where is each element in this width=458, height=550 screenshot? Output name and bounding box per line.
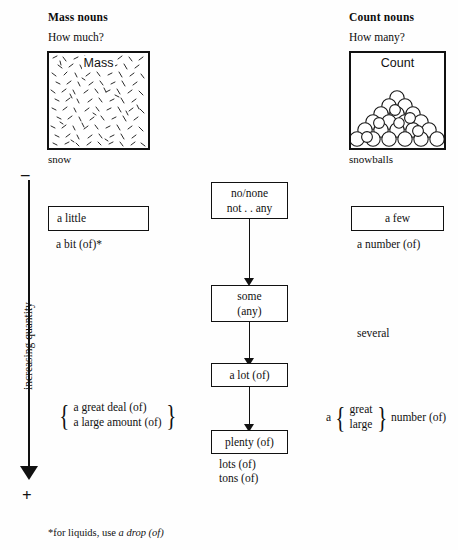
mass-illustration: Mass [47, 51, 150, 150]
count-column-question: How many? [349, 31, 405, 43]
count-brace-item-1: large [350, 417, 373, 432]
count-several: several [357, 326, 390, 342]
mass-column-heading: Mass nouns [48, 11, 108, 23]
footnote: *for liquids, use a drop (of) [48, 527, 164, 538]
footnote-italic: a drop (of) [119, 527, 164, 538]
axis-arrowhead-icon [20, 466, 38, 480]
count-brace-item-0: great [350, 402, 373, 417]
count-caption: snowballs [349, 153, 393, 165]
count-box-a-few-label: a few [385, 211, 410, 225]
footnote-text: for liquids, use [53, 527, 118, 538]
center-box-no-none: no/none not . . any [211, 182, 288, 219]
mass-box-a-little: a little [48, 206, 149, 231]
count-illustration: Count [349, 51, 446, 150]
count-box-a-few: a few [351, 206, 444, 231]
center-box-plenty: plenty (of) [211, 430, 288, 454]
center-box-some-line1: some [237, 289, 261, 303]
mass-brace-item-1: a large amount (of) [73, 415, 161, 430]
mass-brace-item-0: a great deal (of) [73, 400, 161, 415]
right-brace-icon: } [377, 405, 387, 429]
mass-caption: snow [48, 153, 71, 165]
center-box-some: some (any) [211, 285, 288, 322]
center-box-a-lot: a lot (of) [211, 363, 288, 387]
count-a-number-of: a number (of) [357, 237, 420, 253]
axis-plus-sign: + [22, 487, 32, 504]
count-picture-label: Count [351, 56, 444, 70]
count-column-heading: Count nouns [349, 11, 414, 23]
center-box-some-line2: (any) [237, 304, 261, 318]
count-brace-group: a { great large } number (of) [326, 402, 446, 432]
axis-label: increasing quantity [22, 302, 34, 390]
connector-1 [249, 219, 250, 281]
center-box-plenty-label: plenty (of) [225, 435, 274, 449]
center-tons-of: tons (of) [219, 471, 258, 487]
mass-brace-group: { a great deal (of) a large amount (of) … [57, 400, 178, 430]
right-brace-icon: } [166, 403, 176, 427]
mass-box-a-little-label: a little [57, 211, 86, 225]
center-box-no-none-line2: not . . any [227, 201, 273, 215]
count-brace-prefix: a [326, 411, 331, 423]
mass-picture-label: Mass [49, 56, 148, 70]
center-box-a-lot-label: a lot (of) [229, 368, 269, 382]
count-brace-suffix: number (of) [391, 411, 446, 423]
center-box-no-none-line1: no/none [231, 186, 268, 200]
left-brace-icon: { [59, 403, 69, 427]
mass-column-question: How much? [48, 31, 104, 43]
figure-canvas: Mass nouns How much? [0, 0, 458, 550]
left-brace-icon: { [335, 405, 345, 429]
mass-a-bit-of: a bit (of)* [56, 237, 102, 253]
